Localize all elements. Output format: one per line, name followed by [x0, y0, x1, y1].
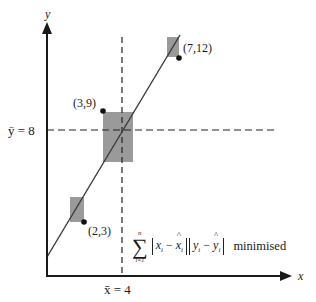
- point-label-7-12: (7,12): [183, 42, 212, 54]
- summation: n ∑ i=1: [132, 230, 148, 263]
- y-hat-sub: i: [218, 246, 220, 254]
- x-mean-label: x̄ = 4: [104, 283, 131, 296]
- y-axis-label: y: [45, 8, 50, 20]
- x-axis-arrow-icon: [280, 271, 292, 281]
- abs-y-residual: yi − yi: [189, 238, 224, 255]
- minus-sign: −: [166, 238, 173, 252]
- x-axis-label: x: [298, 270, 303, 282]
- sum-lower-limit: i=1: [135, 257, 144, 263]
- abs-x-residual: xi − xi: [152, 238, 187, 255]
- x-sub: i: [161, 246, 163, 254]
- data-point-3-9: [100, 108, 106, 114]
- minus-sign: −: [203, 238, 210, 252]
- point-label-3-9: (3,9): [73, 97, 96, 109]
- point-label-2-3: (2,3): [88, 225, 111, 237]
- x-hat: x: [176, 238, 181, 252]
- data-point-7-12: [176, 55, 182, 61]
- y-axis-arrow-icon: [42, 22, 52, 34]
- x-hat-sub: i: [181, 246, 183, 254]
- residual-rect-middle: [103, 112, 133, 162]
- y-mean-label: ȳ = 8: [8, 124, 35, 137]
- y-hat: y: [213, 238, 218, 252]
- regression-line: [47, 35, 180, 257]
- objective-formula: n ∑ i=1 xi − xi yi − yi minimised: [132, 230, 286, 263]
- data-point-2-3: [81, 219, 87, 225]
- residual-rect-bottom: [70, 197, 84, 222]
- sum-symbol: ∑: [132, 237, 148, 257]
- minimised-label: minimised: [233, 239, 286, 254]
- y-sub: i: [198, 246, 200, 254]
